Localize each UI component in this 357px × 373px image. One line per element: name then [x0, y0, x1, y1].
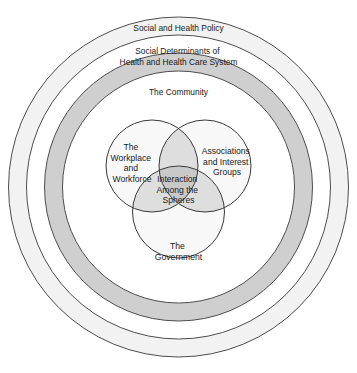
spheres-of-influence-diagram: Social and Health Policy Social Determin…	[0, 0, 357, 373]
label-interaction-among-the-spheres: Interaction Among the Spheres	[157, 174, 201, 205]
diagram-canvas: Social and Health Policy Social Determin…	[0, 0, 357, 373]
ring-label-social-determinants: Social Determinants of Health and Health…	[120, 46, 238, 67]
ring-label-the-community: The Community	[149, 87, 209, 97]
ring-label-social-and-health-policy: Social and Health Policy	[133, 23, 224, 33]
